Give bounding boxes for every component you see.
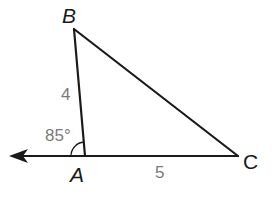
angle-label-a: 85° xyxy=(45,127,71,144)
side-ab xyxy=(74,29,85,156)
side-label-ab: 4 xyxy=(61,86,70,103)
vertex-label-a: A xyxy=(70,164,84,185)
angle-arc-a xyxy=(71,142,84,156)
triangle-diagram xyxy=(0,0,272,218)
vertex-label-c: C xyxy=(243,151,258,172)
vertex-label-b: B xyxy=(62,5,76,26)
side-bc xyxy=(74,29,238,156)
side-label-ac: 5 xyxy=(155,164,164,181)
